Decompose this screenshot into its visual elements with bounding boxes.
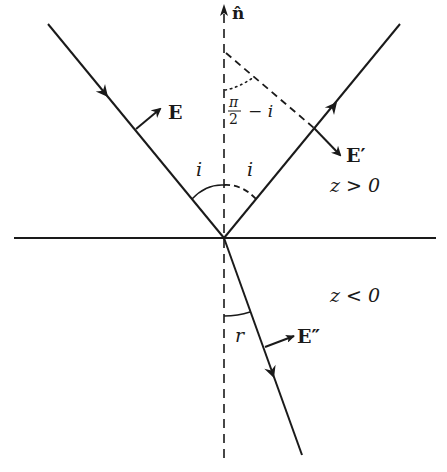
svg-text:π: π bbox=[228, 94, 239, 110]
refracted-ray bbox=[224, 238, 302, 455]
svg-text:− i: − i bbox=[248, 101, 273, 121]
optics-diagram: n̂ E E′ π 2 − i i i z > 0 z < 0 r E″ bbox=[0, 0, 447, 472]
incidence-angle-label-left: i bbox=[196, 158, 202, 180]
transmitted-field-label: E″ bbox=[297, 325, 320, 347]
reflected-field-label: E′ bbox=[346, 144, 366, 166]
incidence-angle-arc-left bbox=[192, 185, 224, 199]
refracted-ray-arrow-icon bbox=[264, 365, 279, 380]
normal-label: n̂ bbox=[232, 3, 244, 23]
svg-text:2: 2 bbox=[229, 111, 238, 127]
refraction-angle-label: r bbox=[235, 324, 246, 346]
incidence-angle-arc-right bbox=[224, 185, 256, 199]
reflected-field-vector bbox=[314, 128, 340, 155]
incident-ray bbox=[48, 24, 224, 238]
incident-field-vector bbox=[136, 109, 160, 129]
refraction-angle-arc bbox=[224, 312, 250, 316]
upper-region-label: z > 0 bbox=[329, 174, 380, 196]
incident-field-label: E bbox=[168, 101, 182, 123]
lower-region-label: z < 0 bbox=[329, 284, 380, 306]
complement-angle-arc bbox=[225, 77, 254, 90]
complement-angle-label: π 2 − i bbox=[228, 94, 273, 127]
transmitted-field-vector bbox=[265, 336, 294, 347]
reflected-ray bbox=[224, 24, 400, 238]
incidence-angle-label-right: i bbox=[247, 158, 253, 180]
